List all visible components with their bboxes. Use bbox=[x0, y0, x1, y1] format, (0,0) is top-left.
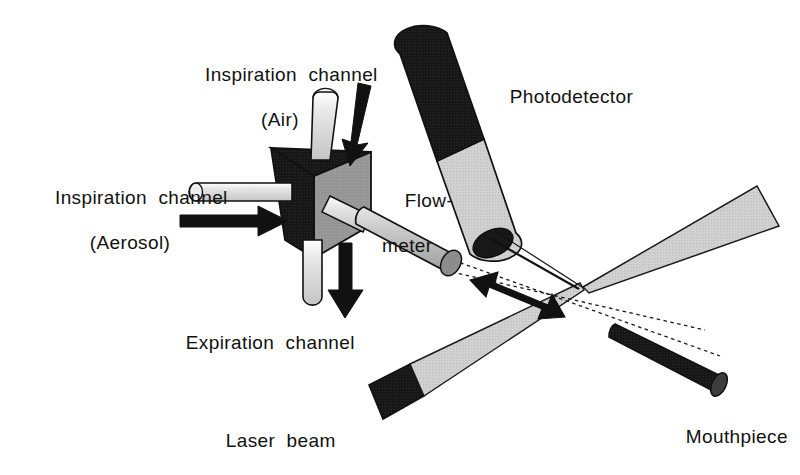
label-inspiration-aerosol: Inspiration channel (Aerosol) bbox=[25, 165, 235, 299]
mouthpiece bbox=[609, 324, 731, 399]
figure-canvas: Inspiration channel (Air) Inspiration ch… bbox=[0, 0, 800, 475]
laser-beam-upper bbox=[583, 186, 779, 293]
label-flowmeter-line1: Flow- bbox=[405, 190, 453, 211]
label-mouthpiece: Mouthpiece bbox=[663, 404, 788, 471]
label-flowmeter: Flow- meter bbox=[382, 168, 453, 302]
arrow-expiration-flow bbox=[328, 243, 363, 318]
photodetector-housing bbox=[395, 26, 484, 161]
label-inspiration-aerosol-line2: (Aerosol) bbox=[25, 232, 235, 254]
label-inspiration-aerosol-line1: Inspiration channel bbox=[55, 187, 228, 208]
label-laser-beam: Laser beam bbox=[203, 408, 336, 475]
arrow-expiration-flow-shape bbox=[328, 243, 363, 318]
label-photodetector-line1: Photodetector bbox=[510, 86, 634, 107]
label-inspiration-air: Inspiration channel (Air) bbox=[175, 42, 385, 176]
label-expiration-channel-line1: Expiration channel bbox=[186, 332, 355, 353]
mouthpiece-body bbox=[609, 324, 723, 392]
label-photodetector: Photodetector bbox=[487, 64, 633, 131]
label-mouthpiece-line1: Mouthpiece bbox=[686, 426, 788, 447]
laser-beam-wedge-upper bbox=[583, 186, 779, 293]
label-inspiration-air-line1: Inspiration channel bbox=[205, 64, 378, 85]
label-expiration-channel: Expiration channel bbox=[163, 310, 355, 377]
arrow-measurement-axis-shape bbox=[470, 272, 565, 319]
expiration-tube-body bbox=[303, 240, 322, 305]
arrow-measurement-axis bbox=[470, 272, 565, 319]
label-inspiration-air-line2: (Air) bbox=[175, 109, 385, 131]
expiration-tube bbox=[303, 240, 322, 305]
label-flowmeter-line2: meter bbox=[382, 235, 453, 257]
label-laser-beam-line1: Laser beam bbox=[226, 430, 336, 451]
detection-sight-line bbox=[489, 238, 579, 289]
